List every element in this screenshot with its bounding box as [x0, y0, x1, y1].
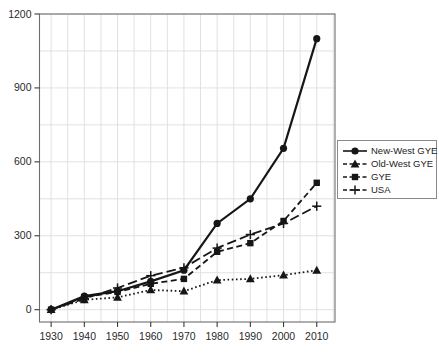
legend-item-old-west-gye: Old-West GYE: [342, 157, 436, 170]
plus-dashed-line-icon: [342, 184, 368, 196]
axis-layer: 0300600900120019301940195019601970198019…: [8, 8, 328, 343]
y-tick-label: 300: [14, 229, 32, 241]
figure-line-chart: 0300600900120019301940195019601970198019…: [0, 0, 439, 354]
legend-item-new-west-gye: New-West GYE: [342, 144, 436, 157]
legend-label: Old-West GYE: [371, 158, 433, 169]
x-tick-label: 1960: [139, 330, 163, 342]
triangle-dotted-line-icon: [342, 158, 368, 170]
square-dashed-line-icon: [342, 171, 368, 183]
y-tick-label: 0: [26, 303, 32, 315]
x-tick-label: 1950: [106, 330, 130, 342]
x-tick-label: 1990: [239, 330, 263, 342]
legend-label: GYE: [371, 171, 391, 182]
grid-layer: [40, 14, 336, 322]
x-tick-label: 1930: [39, 330, 63, 342]
legend-label: USA: [371, 184, 391, 195]
y-tick-label: 600: [14, 155, 32, 167]
legend-label: New-West GYE: [371, 145, 437, 156]
circle-solid-line-icon: [342, 145, 368, 157]
legend-item-gye: GYE: [342, 170, 436, 183]
x-tick-label: 2010: [305, 330, 329, 342]
plot-border: [40, 14, 336, 322]
legend-item-usa: USA: [342, 183, 436, 196]
y-tick-label: 900: [14, 81, 32, 93]
y-tick-label: 1200: [8, 8, 32, 20]
x-tick-label: 2000: [272, 330, 296, 342]
x-tick-label: 1970: [172, 330, 196, 342]
x-tick-label: 1980: [205, 330, 229, 342]
chart-legend: New-West GYE Old-West GYE GYE USA: [337, 140, 437, 199]
x-tick-label: 1940: [73, 330, 97, 342]
